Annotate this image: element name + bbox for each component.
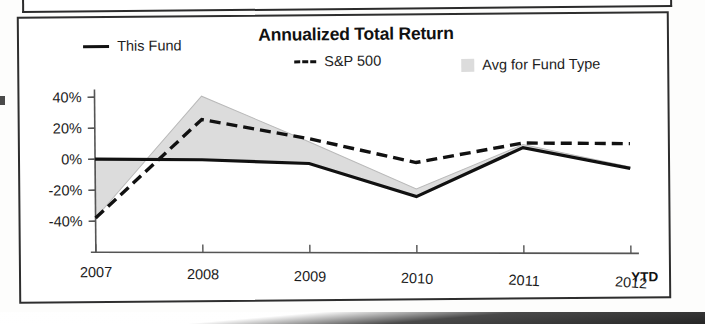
x-tick-2007: 2007 [80, 264, 112, 280]
x-tick-2008: 2008 [187, 266, 219, 282]
x-tick-2009: 2009 [294, 268, 327, 285]
avg-for-fund-type-band [95, 92, 631, 218]
scanned-page-background: Annualized Total Return This Fund S&P 50… [0, 0, 705, 324]
x-tick-2012: 2012 [615, 273, 648, 291]
x-axis-line [91, 247, 639, 258]
y-axis-line [94, 89, 95, 252]
scan-bottom-smudge [0, 312, 705, 324]
annualized-total-return-chart: Annualized Total Return This Fund S&P 50… [0, 0, 705, 324]
x-tick-2010: 2010 [401, 270, 434, 287]
x-tick-2011: 2011 [508, 272, 540, 290]
